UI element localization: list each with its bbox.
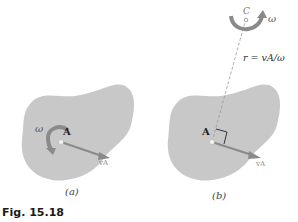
center-label-c: C (243, 6, 250, 16)
point-label-a: A (63, 126, 71, 137)
omega-label-b: ω (268, 13, 276, 24)
radius-equation: r = vA/ω (243, 52, 285, 63)
point-label-b: A (202, 126, 210, 137)
point-a-marker (59, 140, 64, 145)
figure-caption: Fig. 15.18 (2, 206, 64, 219)
omega-label-a: ω (35, 123, 43, 134)
instant-center-marker (244, 18, 248, 22)
panel-b-label: (b) (212, 190, 226, 201)
velocity-label-b: vA (256, 160, 265, 168)
velocity-label-a: vA (99, 159, 108, 167)
panel-a-label: (a) (65, 186, 79, 197)
diagram-canvas (0, 0, 298, 222)
point-a-marker-b (210, 140, 215, 145)
